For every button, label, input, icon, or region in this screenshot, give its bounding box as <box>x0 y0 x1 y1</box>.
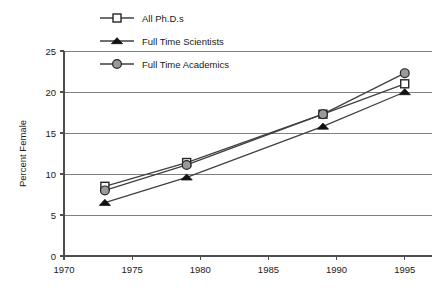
x-tick-label: 1990 <box>326 264 347 275</box>
data-point <box>319 110 328 119</box>
legend-label: Full Time Academics <box>142 59 229 70</box>
y-tick-label: 25 <box>45 46 56 57</box>
y-tick-label: 0 <box>51 251 56 262</box>
y-tick-label: 10 <box>45 169 56 180</box>
data-point <box>401 80 409 88</box>
legend-marker-filled-circle <box>113 60 122 69</box>
x-tick-label: 1980 <box>190 264 211 275</box>
x-tick-label: 1975 <box>122 264 143 275</box>
data-point <box>400 69 409 78</box>
x-tick-label: 1985 <box>258 264 279 275</box>
legend-marker-open-square <box>113 14 121 22</box>
x-tick-label: 1970 <box>53 264 74 275</box>
legend-label: Full Time Scientists <box>142 36 224 47</box>
y-tick-label: 20 <box>45 87 56 98</box>
y-tick-label: 15 <box>45 128 56 139</box>
x-tick-label: 1995 <box>394 264 415 275</box>
y-tick-label: 5 <box>51 210 56 221</box>
chart-container: 2520151050 197019751980198519901995 Perc… <box>0 0 447 295</box>
line-chart: 2520151050 197019751980198519901995 Perc… <box>0 0 447 295</box>
legend-item-3[interactable]: Full Time Academics <box>100 59 229 70</box>
legend-item-1[interactable]: All Ph.D.s <box>100 13 184 24</box>
y-axis-title: Percent Female <box>17 120 28 187</box>
data-point <box>182 161 191 170</box>
legend-label: All Ph.D.s <box>142 13 184 24</box>
data-point <box>100 186 109 195</box>
